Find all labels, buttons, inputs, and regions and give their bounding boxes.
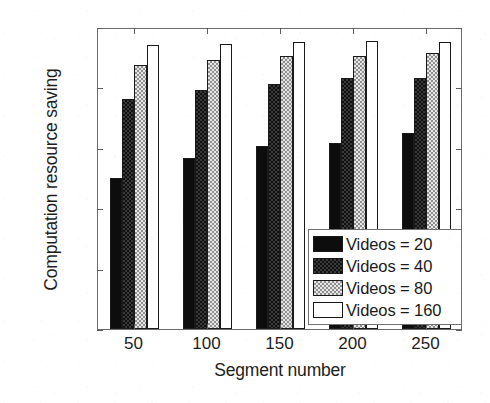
y-tick-mark xyxy=(97,28,103,29)
legend-item: Videos = 20 xyxy=(313,233,461,255)
chart-legend: Videos = 20 Videos = 40 Videos = 80 Vide… xyxy=(308,229,462,325)
bar xyxy=(134,65,146,329)
bar xyxy=(110,178,122,329)
bar xyxy=(122,99,134,329)
y-tick-mark-right xyxy=(456,330,462,331)
bar xyxy=(268,84,280,329)
bar xyxy=(220,44,232,329)
x-tick-mark xyxy=(134,28,135,34)
bar xyxy=(256,146,268,329)
y-tick-mark-right xyxy=(456,209,462,210)
x-tick-mark-bottom xyxy=(280,324,281,330)
bar xyxy=(147,45,159,329)
y-tick-mark-right xyxy=(456,88,462,89)
x-tick-mark xyxy=(280,28,281,34)
legend-item: Videos = 40 xyxy=(313,255,461,277)
legend-label: Videos = 40 xyxy=(346,257,432,276)
bar-chart-figure: Computation resource saving Segment numb… xyxy=(0,0,490,403)
legend-swatch-videos-160 xyxy=(313,302,343,318)
x-tick-label: 250 xyxy=(411,334,439,354)
x-tick-mark xyxy=(353,28,354,34)
bar xyxy=(195,90,207,329)
y-tick-mark-right xyxy=(456,28,462,29)
x-tick-label: 100 xyxy=(192,334,220,354)
legend-item: Videos = 80 xyxy=(313,277,461,299)
x-axis-title: Segment number xyxy=(97,360,463,381)
y-tick-mark xyxy=(97,88,103,89)
legend-swatch-videos-80 xyxy=(313,280,343,296)
legend-item: Videos = 160 xyxy=(313,299,461,321)
x-tick-mark-bottom xyxy=(207,324,208,330)
y-tick-mark xyxy=(97,330,103,331)
bar xyxy=(293,42,305,329)
x-tick-mark xyxy=(207,28,208,34)
bar xyxy=(280,56,292,329)
legend-swatch-videos-40 xyxy=(313,258,343,274)
y-tick-mark xyxy=(97,149,103,150)
y-tick-mark xyxy=(97,209,103,210)
x-tick-mark-bottom xyxy=(134,324,135,330)
y-axis-title: Computation resource saving xyxy=(41,25,62,335)
y-tick-mark xyxy=(97,270,103,271)
x-tick-label: 150 xyxy=(265,334,293,354)
x-tick-label: 50 xyxy=(124,334,143,354)
x-tick-mark xyxy=(426,28,427,34)
legend-swatch-videos-20 xyxy=(313,236,343,252)
legend-label: Videos = 80 xyxy=(346,279,432,298)
bar-group xyxy=(256,29,306,329)
x-tick-label: 200 xyxy=(338,334,366,354)
bar-group xyxy=(183,29,233,329)
bar xyxy=(207,60,219,329)
legend-label: Videos = 160 xyxy=(346,301,441,320)
legend-label: Videos = 20 xyxy=(346,235,432,254)
bar xyxy=(183,158,195,329)
y-tick-mark-right xyxy=(456,149,462,150)
bar-group xyxy=(110,29,160,329)
